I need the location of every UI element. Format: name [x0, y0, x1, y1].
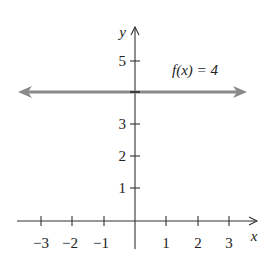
- x-axis-label: x: [250, 228, 258, 244]
- chart: −3 −2 −1 1 2 3 1 2 3 5 y x f(x) = 4: [0, 0, 271, 263]
- y-axis-label: y: [117, 24, 126, 40]
- x-tick-label: 1: [162, 235, 170, 251]
- x-tick-label: −3: [33, 235, 49, 251]
- x-tick-label: 2: [194, 235, 202, 251]
- x-tick-label: −1: [93, 235, 109, 251]
- y-tick-label: 5: [119, 53, 127, 69]
- y-tick-label: 2: [119, 148, 127, 164]
- x-tick-label: 3: [225, 235, 233, 251]
- x-tick-label: −2: [62, 235, 78, 251]
- y-tick-label: 1: [119, 180, 127, 196]
- y-tick-label: 3: [119, 116, 127, 132]
- plot-svg: −3 −2 −1 1 2 3 1 2 3 5 y x f(x) = 4: [0, 0, 271, 263]
- function-label: f(x) = 4: [172, 62, 218, 79]
